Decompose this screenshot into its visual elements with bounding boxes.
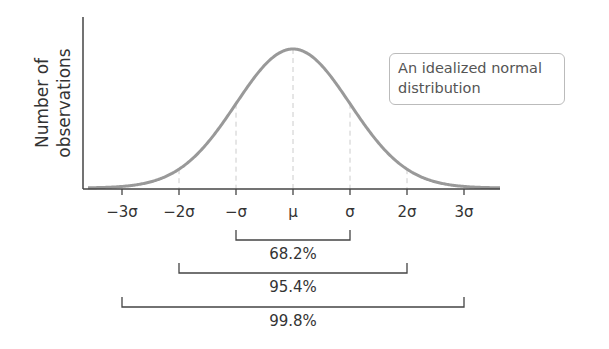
interval-bracket xyxy=(179,263,407,273)
x-tick-label: σ xyxy=(345,203,355,221)
legend-line2: distribution xyxy=(398,78,556,98)
interval-label: 68.2% xyxy=(269,245,317,263)
interval-bracket xyxy=(236,230,350,240)
x-tick-label: −σ xyxy=(225,203,248,221)
y-axis-label-line2: observations xyxy=(54,48,74,158)
dashed-guides xyxy=(179,49,407,189)
interval-label: 95.4% xyxy=(269,278,317,296)
y-axis-label: Number of observations xyxy=(32,48,74,158)
x-tick-label: μ xyxy=(288,203,298,221)
x-ticks: −3σ−2σ−σμσ2σ3σ xyxy=(106,189,474,221)
interval-bracket xyxy=(122,297,464,307)
x-tick-label: 2σ xyxy=(397,203,417,221)
interval-brackets: 68.2%95.4%99.8% xyxy=(122,230,464,330)
legend-box: An idealized normal distribution xyxy=(389,53,565,105)
x-tick-label: −2σ xyxy=(163,203,195,221)
x-tick-label: 3σ xyxy=(454,203,474,221)
y-axis-label-line1: Number of xyxy=(32,57,52,148)
interval-label: 99.8% xyxy=(269,312,317,330)
x-tick-label: −3σ xyxy=(106,203,138,221)
legend-line1: An idealized normal xyxy=(398,58,556,78)
